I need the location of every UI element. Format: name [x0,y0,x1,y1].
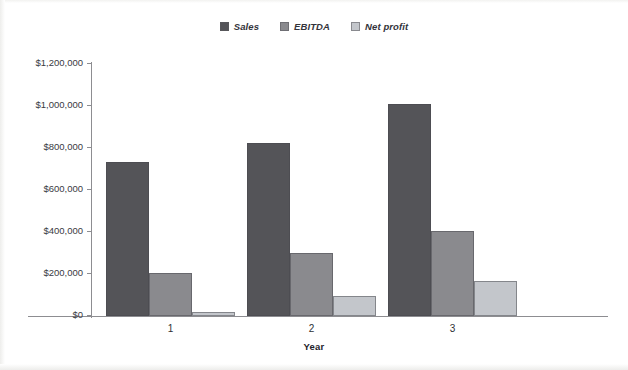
y-tick-label: $800,000 [43,141,83,152]
y-tick-label: $200,000 [43,267,83,278]
chart-legend: SalesEBITDANet profit [0,21,628,32]
legend-label: EBITDA [294,21,330,32]
y-tick-label: $1,200,000 [35,57,83,68]
x-tick-label-3: 3 [423,323,483,334]
y-tick-label: $400,000 [43,225,83,236]
legend-item-ebitda[interactable]: EBITDA [280,21,330,32]
y-tick-label: $1,000,000 [35,99,83,110]
bar-sales-year-1[interactable] [106,162,149,316]
legend-label: Sales [234,21,259,32]
legend-swatch-icon [280,22,289,31]
bar-group-year-1 [106,64,241,316]
bar-sales-year-3[interactable] [388,104,431,316]
y-tick-label: $600,000 [43,183,83,194]
bar-ebitda-year-2[interactable] [290,253,333,316]
x-tick-label-1: 1 [141,323,201,334]
bar-groups [92,64,590,316]
bar-net-profit-year-3[interactable] [474,281,517,316]
legend-swatch-icon [351,22,360,31]
bar-ebitda-year-3[interactable] [431,231,474,316]
legend-swatch-icon [220,22,229,31]
legend-item-net-profit[interactable]: Net profit [351,21,408,32]
x-tick-label-2: 2 [282,323,342,334]
bar-group-year-2 [247,64,382,316]
bar-net-profit-year-1[interactable] [192,312,235,316]
legend-label: Net profit [365,21,408,32]
bar-chart: SalesEBITDANet profit $0$200,000$400,000… [0,0,628,370]
bar-net-profit-year-2[interactable] [333,296,376,316]
legend-item-sales[interactable]: Sales [220,21,259,32]
x-axis-line [28,316,608,317]
bar-group-year-3 [388,64,523,316]
y-tick-label: $0 [72,309,83,320]
x-axis-title: Year [0,341,628,352]
bar-ebitda-year-1[interactable] [149,273,192,316]
bar-sales-year-2[interactable] [247,143,290,316]
